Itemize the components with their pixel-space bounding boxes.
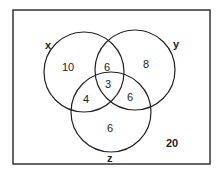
region-x-only: 10 bbox=[62, 61, 74, 73]
universal-set-rectangle bbox=[13, 10, 210, 164]
region-z-only: 6 bbox=[107, 122, 113, 134]
set-label-z: z bbox=[107, 152, 113, 164]
venn-diagram: x y z 10 6 8 3 4 6 6 20 bbox=[0, 0, 220, 175]
set-label-y: y bbox=[173, 38, 180, 50]
region-x-and-z: 4 bbox=[83, 93, 89, 105]
region-y-and-z: 6 bbox=[127, 91, 133, 103]
region-x-y-z: 3 bbox=[105, 78, 111, 90]
region-outside: 20 bbox=[166, 137, 178, 149]
set-label-x: x bbox=[45, 39, 52, 51]
region-y-only: 8 bbox=[143, 58, 149, 70]
region-x-and-y: 6 bbox=[104, 61, 110, 73]
